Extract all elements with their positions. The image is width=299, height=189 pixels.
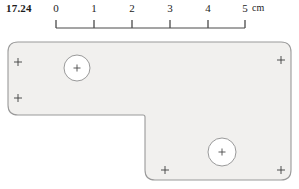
part-outline-path — [8, 42, 291, 180]
part-drawing-svg — [0, 0, 299, 189]
figure-container: 17.24 012345cm — [0, 0, 299, 189]
